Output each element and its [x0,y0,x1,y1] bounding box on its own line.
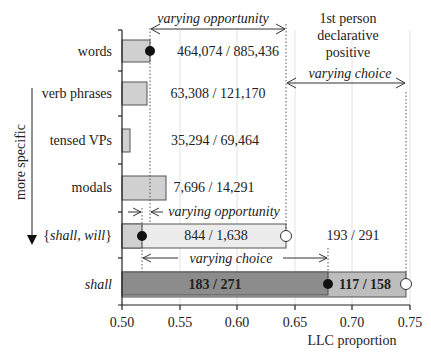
marker-shall-will [137,231,147,241]
more-specific-arrow: more specific [13,88,37,245]
tick-0-55: 0.55 [168,315,193,330]
x-tick-labels: 0.50 0.55 0.60 0.65 0.70 0.75 [110,315,423,330]
category-words: words [78,44,112,59]
value-tensed-vps: 35,294 / 69,464 [171,133,259,148]
value-shall: 183 / 271 [189,277,242,292]
marker-shall-will-1st [281,231,292,242]
value-shall-will: 844 / 1,638 [184,228,247,243]
value-shall-will-1st: 193 / 291 [327,228,380,243]
annotation-1st-person-line2: declarative [317,28,378,43]
marker-words [145,46,155,56]
bar-modals [122,176,166,200]
value-verb-phrases: 63,308 / 121,170 [171,86,266,101]
annotation-varying-choice-top: varying choice [309,66,392,81]
category-tensed-vps: tensed VPs [50,133,112,148]
category-verb-phrases: verb phrases [42,86,112,101]
tick-0-60: 0.60 [225,315,250,330]
marker-shall [323,279,333,289]
tick-0-50: 0.50 [110,315,135,330]
tick-0-70: 0.70 [340,315,365,330]
category-shall-will: {shall, will} [43,228,112,243]
value-modals: 7,696 / 14,291 [174,180,255,195]
annotation-1st-person-line1: 1st person [319,11,376,26]
annotation-varying-opportunity-mid: varying opportunity [168,204,280,219]
annotation-varying-opportunity-top: varying opportunity [157,11,269,26]
marker-shall-1st [401,279,412,290]
category-labels: words verb phrases tensed VPs modals {sh… [42,44,112,292]
llc-proportion-chart: 0.50 0.55 0.60 0.65 0.70 0.75 LLC propor… [0,0,431,353]
tick-0-75: 0.75 [398,315,423,330]
value-words: 464,074 / 885,436 [177,44,279,59]
tick-0-65: 0.65 [283,315,308,330]
y-axis-label: more specific [13,124,28,200]
x-axis-label: LLC proportion [307,333,396,348]
category-modals: modals [72,180,112,195]
annotation-1st-person-line3: positive [326,45,370,60]
value-shall-1st: 117 / 158 [339,277,391,292]
bar-tensed-vps [122,129,130,152]
bar-verb-phrases [122,82,147,105]
category-shall: shall [85,277,112,292]
annotation-varying-choice-mid: varying choice [190,251,273,266]
